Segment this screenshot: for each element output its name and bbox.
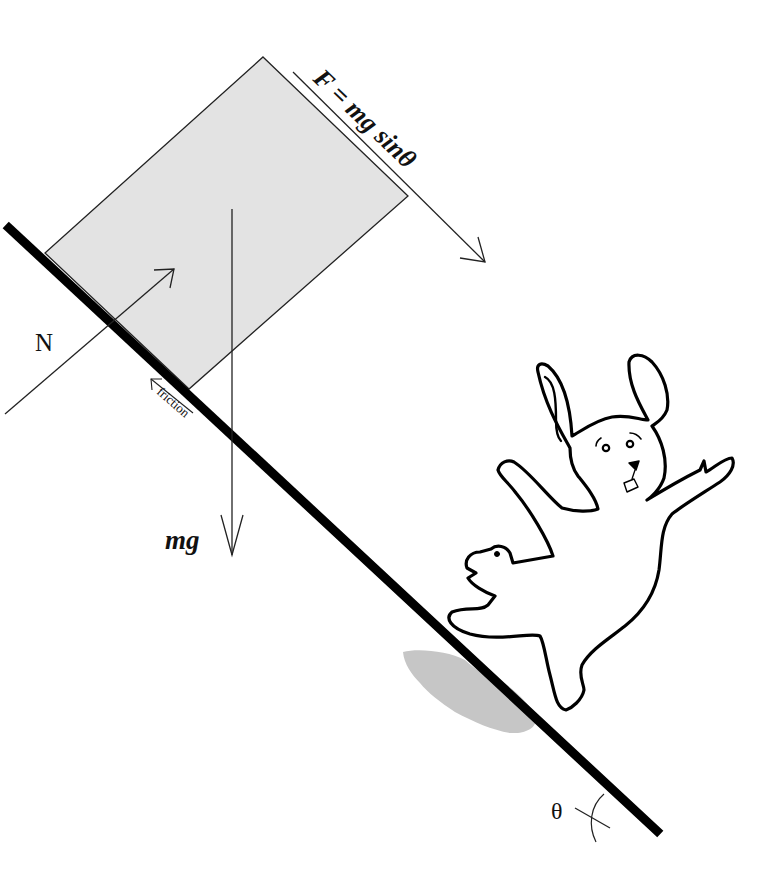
bunny-paw-dot: [495, 552, 500, 557]
bunny-eye-left: [603, 445, 609, 451]
normal-label: N: [35, 329, 53, 356]
bunny-eye-right: [627, 441, 633, 447]
bunny-body: [449, 355, 733, 710]
diagram-svg: F = mg sinθ N mg friction θ: [0, 0, 770, 890]
weight-label: mg: [165, 525, 200, 555]
angle-arc: [575, 794, 610, 842]
diagram-canvas: F = mg sinθ N mg friction θ: [0, 0, 770, 890]
bunny: [449, 355, 733, 710]
angle-label: θ: [551, 798, 563, 824]
